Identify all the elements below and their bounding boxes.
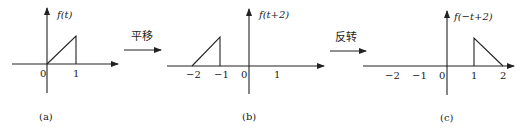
tick-label-neg2: −2 <box>385 70 400 81</box>
y-axis-label: f(t) <box>56 9 73 20</box>
signal-ramp <box>47 36 76 64</box>
tick-label-1: 1 <box>471 70 477 81</box>
arrow-label: 平移 <box>131 30 153 43</box>
tick-label-neg1: −1 <box>412 70 427 81</box>
tick-label-1: 1 <box>274 69 280 80</box>
panel-a: f(t) 0 1 (a) <box>12 8 118 122</box>
tick-label-0: 0 <box>241 69 247 80</box>
signal-ramp <box>474 38 503 66</box>
tick-label-neg1: −1 <box>214 69 229 80</box>
tick-label-2: 2 <box>500 70 506 81</box>
arrow-shift: 平移 <box>124 30 161 50</box>
signal-transform-diagram: f(t) 0 1 (a) 平移 f(t+2) −2 −1 0 1 (b) 反转 … <box>0 0 525 129</box>
tick-label-1: 1 <box>73 68 79 79</box>
panel-caption: (b) <box>242 111 256 122</box>
tick-label-0: 0 <box>40 68 46 79</box>
panel-b: f(t+2) −2 −1 0 1 (b) <box>167 9 324 122</box>
arrow-label: 反转 <box>335 30 357 44</box>
arrow-flip: 反转 <box>330 30 366 51</box>
tick-label-neg2: −2 <box>186 69 201 80</box>
y-axis-label: f(−t+2) <box>453 11 493 22</box>
signal-ramp <box>192 37 220 66</box>
y-axis-label: f(t+2) <box>258 9 289 20</box>
panel-c: f(−t+2) −2 −1 0 1 2 (c) <box>363 11 514 123</box>
panel-caption: (c) <box>440 112 454 123</box>
panel-caption: (a) <box>39 111 53 122</box>
tick-label-0: 0 <box>439 70 445 81</box>
